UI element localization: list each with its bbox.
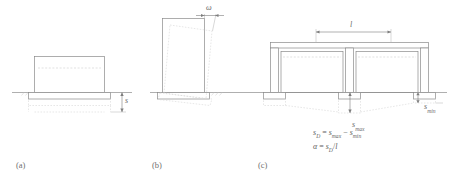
label-settlement-s: s <box>125 96 128 105</box>
frame-column-left-c <box>271 48 279 93</box>
panel-letter-c: (c) <box>258 160 267 170</box>
frame-column-right-c <box>421 48 429 93</box>
eq2-term2-symbol: l <box>335 142 337 151</box>
frame-top-beam-c <box>271 43 429 49</box>
eq1-equals: = <box>322 128 327 137</box>
panel-c-graphic <box>258 29 447 113</box>
soil-hatch-b <box>212 93 223 96</box>
label-settlement-min-subscript: min <box>427 108 435 114</box>
eq1-term1-subscript: max <box>332 133 341 139</box>
dimension-smax-c <box>348 93 351 114</box>
dimension-s-a <box>111 93 127 113</box>
eq2-lhs-symbol: α <box>313 142 317 151</box>
label-tilt-omega: ω <box>206 3 212 12</box>
label-settlement-min: smin <box>424 95 436 114</box>
footing-a <box>29 93 111 100</box>
building-body-b <box>163 19 205 93</box>
panel-b-graphic <box>150 14 258 106</box>
eq1-lhs-subscript: D <box>316 133 320 139</box>
bay-right-c <box>356 52 418 93</box>
footing-left-c <box>264 93 286 100</box>
bay-left-c <box>281 52 343 93</box>
panel-letter-a: (a) <box>16 160 25 170</box>
panel-letter-b: (b) <box>152 160 162 170</box>
eq2-equals: = <box>319 142 324 151</box>
eq1-term2-subscript: min <box>353 133 361 139</box>
settled-ghost-a <box>29 99 111 112</box>
equation-angular-distortion: α = sD/l <box>313 142 337 153</box>
dimension-l-c <box>316 29 391 43</box>
label-span-length: l <box>350 20 352 29</box>
frame-column-mid-c <box>346 48 354 93</box>
eq1-operator: − <box>343 128 348 137</box>
building-body-a <box>35 57 105 93</box>
equation-differential-settlement: sD = smax − smin <box>313 128 361 139</box>
settlement-figure: .ol{fill:#ffffff;stroke:#8a8a8a;stroke-w… <box>0 0 453 184</box>
panel-a-graphic <box>12 57 132 113</box>
figure-canvas: .ol{fill:#ffffff;stroke:#8a8a8a;stroke-w… <box>0 0 453 184</box>
